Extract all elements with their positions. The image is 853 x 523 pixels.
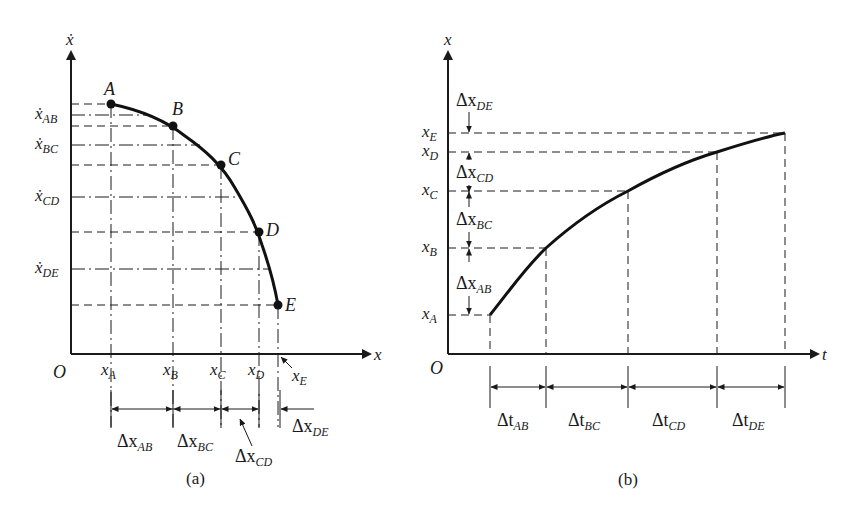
y-label-x-e: xE: [421, 122, 438, 144]
point-b-label: B: [172, 99, 183, 119]
panel-b-y-axis-label: x: [443, 30, 452, 49]
x-label-e: xE: [291, 366, 308, 388]
point-c-label: C: [228, 149, 241, 169]
x-label-b: xB: [162, 360, 179, 382]
panel-b-y-labels: xA xB xC xD xE: [421, 122, 439, 326]
point-a-label: A: [103, 79, 116, 99]
x-label-d: xD: [247, 360, 265, 382]
point-d: [255, 228, 264, 237]
y-interval-dx-cd: ΔxCD: [456, 162, 494, 185]
interval-dx-bc: ΔxBC: [177, 431, 214, 454]
y-label-x-b: xB: [421, 237, 438, 259]
interval-dx-ab: ΔxAB: [117, 431, 153, 454]
panel-b-y-interval-labels: ΔxDE ΔxCD ΔxBC ΔxAB: [456, 90, 494, 296]
y-interval-dx-bc: ΔxBC: [456, 209, 493, 232]
x-label-c: xC: [209, 360, 227, 382]
panel-a-average-lines: [71, 115, 270, 269]
y-label-xdot-cd: ẋCD: [34, 186, 60, 208]
panel-b-t-interval-labels: ΔtAB ΔtBC ΔtCD ΔtDE: [497, 410, 765, 433]
point-a: [107, 100, 116, 109]
panel-a-curve: [111, 104, 278, 305]
x-label-a: xA: [100, 360, 117, 382]
point-e: [274, 301, 283, 310]
panel-b-curve: [490, 133, 785, 315]
panel-a-origin-label: O: [53, 362, 66, 382]
panel-a-x-labels: xA xB xC xD xE: [100, 360, 308, 388]
t-interval-dt-bc: ΔtBC: [568, 410, 601, 433]
panel-b-caption: (b): [618, 470, 638, 489]
panel-b-x-axis-label: t: [822, 345, 828, 364]
panel-a-x-axis-label: x: [373, 345, 382, 364]
panel-a-interval-labels: ΔxAB ΔxBC ΔxCD ΔxDE: [117, 416, 329, 469]
point-b: [169, 122, 178, 131]
panel-b-level-lines: [448, 133, 785, 354]
panel-a: A B C D E ẋ x O ẋAB ẋBC ẋCD ẋDE xA xB xC…: [34, 30, 382, 488]
panel-b-t-dimension-lines: [490, 366, 785, 408]
t-interval-dt-cd: ΔtCD: [652, 410, 686, 433]
point-e-label: E: [284, 295, 296, 315]
panel-a-caption: (a): [186, 469, 205, 488]
panel-a-y-axis-label: ẋ: [65, 30, 74, 49]
panel-b-origin-label: O: [430, 358, 443, 378]
t-interval-dt-ab: ΔtAB: [497, 410, 529, 433]
y-label-xdot-bc: ẋBC: [34, 134, 59, 156]
y-label-xdot-de: ẋDE: [34, 258, 59, 280]
y-interval-dx-de: ΔxDE: [456, 90, 493, 113]
interval-dx-cd: ΔxCD: [235, 446, 273, 469]
y-label-x-c: xC: [421, 180, 439, 202]
panel-a-level-lines: [71, 104, 278, 305]
x-e-pointer: [281, 357, 292, 368]
panel-a-y-labels: ẋAB ẋBC ẋCD ẋDE: [34, 104, 60, 280]
panel-a-points: [107, 100, 283, 310]
point-d-label: D: [265, 220, 279, 240]
point-c: [217, 161, 226, 170]
y-label-xdot-ab: ẋAB: [34, 104, 58, 126]
figure-canvas: A B C D E ẋ x O ẋAB ẋBC ẋCD ẋDE xA xB xC…: [0, 0, 853, 523]
y-label-x-d: xD: [421, 141, 439, 163]
panel-a-dimension-lines: [111, 390, 314, 446]
y-label-x-a: xA: [421, 304, 438, 326]
t-interval-dt-de: ΔtDE: [732, 410, 765, 433]
panel-b: x t O xA xB xC xD xE ΔxDE ΔxCD ΔxBC ΔxAB: [421, 30, 828, 489]
interval-dx-de: ΔxDE: [292, 416, 329, 439]
y-interval-dx-ab: ΔxAB: [456, 273, 492, 296]
